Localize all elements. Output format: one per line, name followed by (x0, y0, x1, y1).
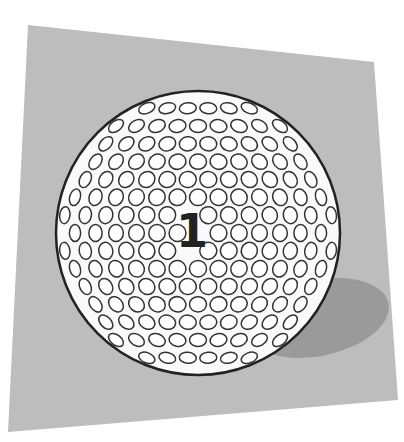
dimple (109, 225, 124, 242)
dimple (190, 260, 207, 277)
dimple (190, 154, 207, 169)
dimple (190, 120, 207, 133)
dimple (252, 225, 268, 242)
dimple (190, 297, 207, 312)
dimple (179, 352, 197, 364)
dimple (315, 225, 326, 242)
ball-number: 1 (176, 204, 208, 258)
dimple (69, 225, 80, 242)
dimple (210, 225, 227, 242)
dimple (199, 102, 217, 114)
golf-ball-scene: 1 (0, 0, 404, 442)
dimple (149, 225, 165, 242)
dimple (199, 352, 217, 364)
dimple (89, 225, 102, 242)
dimple (273, 225, 288, 242)
dimple (190, 334, 207, 347)
dimple (179, 102, 197, 114)
dimple (129, 225, 145, 242)
dimple (294, 225, 307, 242)
dimple (231, 225, 247, 242)
